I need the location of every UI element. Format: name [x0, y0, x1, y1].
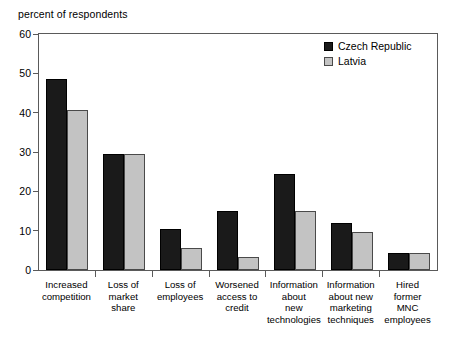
bar-latvia — [67, 110, 88, 270]
bar-latvia — [181, 248, 202, 270]
black-square-icon — [324, 42, 333, 51]
bar-group — [380, 34, 437, 270]
bar-group — [153, 34, 210, 270]
x-axis-label: Hired former MNC employees — [379, 279, 436, 325]
x-axis-label: Increased competition — [38, 279, 95, 302]
x-axis-separator — [95, 271, 96, 277]
bar-latvia — [295, 211, 316, 270]
bar-group — [210, 34, 267, 270]
x-axis-separator — [265, 271, 266, 277]
legend: Czech RepublicLatvia — [324, 39, 412, 69]
legend-item-label: Czech Republic — [338, 40, 412, 52]
x-axis-label: Information about new marketing techniqu… — [322, 279, 379, 325]
bar-latvia — [352, 232, 373, 270]
bar-chart-figure: percent of respondents 0102030405060 Inc… — [0, 0, 458, 338]
bar-czech-republic — [217, 211, 238, 270]
bar-czech-republic — [388, 253, 409, 270]
x-axis-label: Worsened access to credit — [209, 279, 266, 314]
legend-item: Latvia — [324, 54, 412, 68]
bar-group — [266, 34, 323, 270]
bar-czech-republic — [46, 79, 67, 270]
bar-group — [323, 34, 380, 270]
legend-item-label: Latvia — [338, 55, 366, 67]
y-axis-tick-mark — [33, 191, 38, 192]
bar-group — [39, 34, 96, 270]
bar-latvia — [238, 257, 259, 270]
bar-group — [96, 34, 153, 270]
y-axis-tick-mark — [33, 34, 38, 35]
x-axis-separator — [322, 271, 323, 277]
x-axis-label: Information about new technologies — [265, 279, 322, 325]
y-axis-tick-mark — [33, 152, 38, 153]
y-axis-tick-label: 10 — [19, 225, 31, 237]
x-axis-label: Loss of employees — [152, 279, 209, 302]
x-axis-separator — [379, 271, 380, 277]
bar-czech-republic — [160, 229, 181, 270]
y-axis: 0102030405060 — [0, 33, 38, 271]
bar-latvia — [124, 154, 145, 270]
y-axis-tick-label: 0 — [25, 264, 31, 276]
bars-layer — [39, 34, 437, 270]
y-axis-tick-mark — [33, 112, 38, 113]
y-axis-tick-mark — [33, 73, 38, 74]
legend-item: Czech Republic — [324, 39, 412, 53]
y-axis-tick-label: 60 — [19, 28, 31, 40]
y-axis-tick-mark — [33, 230, 38, 231]
y-axis-tick-label: 40 — [19, 107, 31, 119]
x-axis-separators — [38, 271, 438, 277]
y-axis-tick-label: 30 — [19, 146, 31, 158]
bar-czech-republic — [274, 174, 295, 270]
y-axis-title: percent of respondents — [18, 8, 128, 20]
bar-czech-republic — [331, 223, 352, 270]
x-axis-labels: Increased competitionLoss of market shar… — [38, 279, 438, 337]
bar-czech-republic — [103, 154, 124, 270]
x-axis-separator — [152, 271, 153, 277]
x-axis-separator — [209, 271, 210, 277]
bar-latvia — [409, 253, 430, 270]
y-axis-tick-label: 20 — [19, 185, 31, 197]
y-axis-tick-label: 50 — [19, 67, 31, 79]
gray-square-icon — [324, 57, 333, 66]
x-axis-label: Loss of market share — [95, 279, 152, 314]
